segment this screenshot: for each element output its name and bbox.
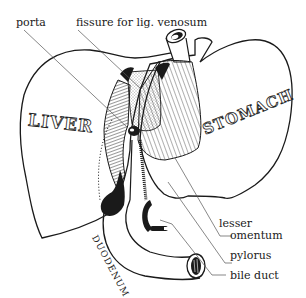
- fissure-dotted-region: [128, 70, 161, 131]
- lesser-omentum-label-line1: lesser: [219, 218, 252, 229]
- pylorus-label: pylorus: [230, 250, 271, 261]
- bile-duct-label: bile duct: [230, 270, 279, 281]
- porta-node: [128, 126, 140, 136]
- anatomy-diagram: porta fissure for lig. venosum lesser om…: [0, 0, 306, 298]
- fissure-label: fissure for lig. venosum: [76, 17, 207, 28]
- porta-label: porta: [16, 17, 46, 28]
- lesser-omentum-label-line2: omentum: [230, 230, 283, 241]
- pylorus-structure: [142, 200, 168, 232]
